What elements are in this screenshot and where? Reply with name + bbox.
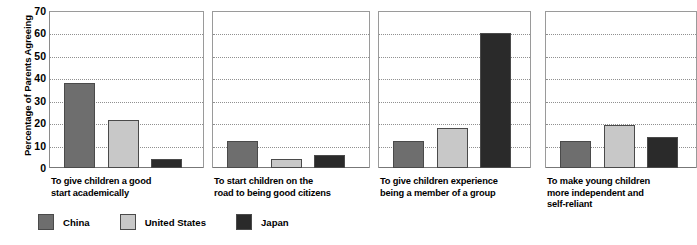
gridline (50, 57, 203, 58)
bar (314, 155, 345, 168)
legend-swatch (38, 214, 54, 230)
chart-panel: To give children a good start academical… (49, 0, 204, 245)
gridline (213, 34, 369, 35)
bar (480, 33, 511, 168)
y-tick-label: 20 (34, 118, 46, 129)
bar (393, 141, 424, 168)
bar (271, 159, 302, 168)
gridline (546, 79, 696, 80)
chart-legend: ChinaUnited StatesJapan (38, 214, 289, 230)
bar (560, 141, 591, 168)
y-tick-label: 40 (34, 73, 46, 84)
gridline (213, 57, 369, 58)
gridline (546, 57, 696, 58)
chart-panel: To give children experience being a memb… (378, 0, 531, 245)
gridline (213, 102, 369, 103)
legend-label: Japan (261, 217, 289, 228)
legend-item: United States (120, 214, 206, 230)
gridline (546, 102, 696, 103)
y-tick-label: 0 (40, 163, 46, 174)
legend-swatch (120, 214, 136, 230)
panel-caption: To make young children more independent … (547, 176, 650, 211)
y-axis-tick-labels: 010203040506070 (24, 0, 46, 180)
y-tick-label: 60 (34, 28, 46, 39)
bar (227, 141, 258, 168)
plot-area (49, 11, 204, 168)
gridline (213, 124, 369, 125)
legend-item: Japan (236, 214, 289, 230)
legend-swatch (236, 214, 252, 230)
chart-panel: To make young children more independent … (545, 0, 697, 245)
gridline (50, 79, 203, 80)
legend-label: United States (145, 217, 206, 228)
y-tick-label: 70 (34, 6, 46, 17)
y-tick-label: 10 (34, 140, 46, 151)
y-tick-label: 50 (34, 51, 46, 62)
plot-area (378, 11, 531, 168)
gridline (546, 34, 696, 35)
plot-area (212, 11, 370, 168)
legend-item: China (38, 214, 90, 230)
chart-panel: To start children on the road to being g… (212, 0, 370, 245)
plot-area (545, 11, 697, 168)
panel-caption: To give children a good start academical… (51, 176, 151, 199)
gridline (50, 34, 203, 35)
y-tick-label: 30 (34, 95, 46, 106)
bar (604, 125, 635, 168)
panel-caption: To give children experience being a memb… (380, 176, 498, 199)
legend-label: China (63, 217, 90, 228)
bar (437, 128, 468, 168)
bar (64, 83, 95, 168)
panel-caption: To start children on the road to being g… (214, 176, 331, 199)
bar (151, 159, 182, 168)
bar (647, 137, 678, 168)
gridline (213, 79, 369, 80)
bar (108, 120, 139, 168)
